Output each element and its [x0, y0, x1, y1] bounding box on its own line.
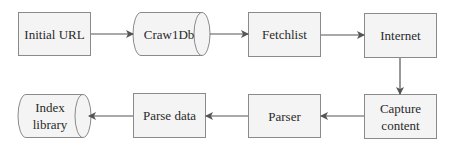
node-fetchlist-label: Fetchlist — [248, 12, 321, 57]
node-crawldb-label: Craw1Db — [133, 12, 205, 56]
node-index-library-label: Index library — [24, 94, 76, 138]
node-capture-content-label: Capture content — [370, 94, 431, 139]
node-initial-url-label: Initial URL — [18, 12, 91, 56]
node-internet-label: Internet — [364, 13, 437, 58]
node-parse-data-label: Parse data — [133, 93, 206, 138]
node-parser-label: Parser — [248, 94, 321, 138]
